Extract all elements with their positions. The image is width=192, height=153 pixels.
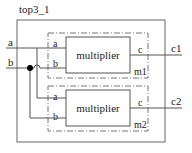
- input-a-label: a: [8, 36, 13, 48]
- port-c-label-m2: c: [138, 97, 143, 108]
- output-c2-label: c2: [171, 95, 181, 107]
- port-b-label-m1: b: [53, 58, 58, 69]
- instance-name-m2: m2: [134, 119, 147, 130]
- input-b-label: b: [8, 56, 14, 68]
- output-c1-label: c1: [171, 42, 181, 54]
- port-c-label-m1: c: [138, 44, 143, 55]
- wire-a-to-m2: [37, 48, 66, 98]
- junction-dot: [27, 65, 33, 71]
- port-b-label-m2: b: [53, 111, 58, 122]
- top-module-label: top3_1: [19, 3, 50, 15]
- port-a-label-m1: a: [53, 38, 58, 49]
- port-a-label-m2: a: [53, 91, 58, 102]
- instance-name-m1: m1: [134, 66, 147, 77]
- multiplier-label-m2: multiplier: [76, 102, 120, 114]
- schematic-diagram: top3_1 multiplier a b c m1 multiplier a …: [0, 0, 192, 153]
- multiplier-label-m1: multiplier: [76, 49, 120, 61]
